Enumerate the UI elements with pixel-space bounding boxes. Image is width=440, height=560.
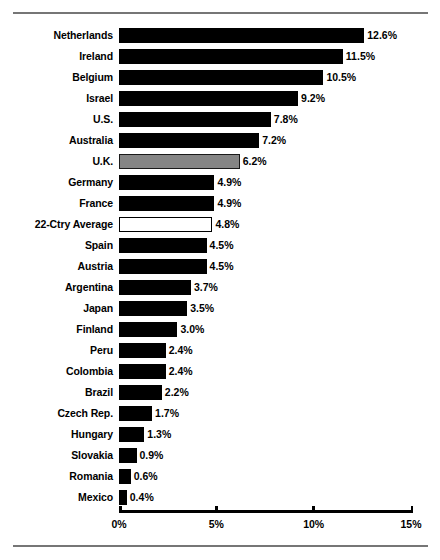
bar-row: 3.7% — [119, 277, 419, 298]
bar-row: 11.5% — [119, 46, 419, 67]
bar — [119, 385, 162, 400]
bar-row: 1.7% — [119, 403, 419, 424]
bar-value-label: 4.5% — [210, 238, 234, 253]
bar — [119, 322, 177, 337]
x-axis-tick — [312, 506, 315, 511]
category-row: Spain — [0, 235, 113, 256]
bar-row: 3.0% — [119, 319, 419, 340]
category-row: Finland — [0, 319, 113, 340]
category-label: Brazil — [85, 382, 113, 403]
bar — [119, 259, 207, 274]
bar-value-label: 0.9% — [140, 448, 164, 463]
bar — [119, 112, 271, 127]
category-row: 22-Ctry Average — [0, 214, 113, 235]
category-row: France — [0, 193, 113, 214]
category-row: Australia — [0, 130, 113, 151]
bar — [119, 490, 127, 505]
bar — [119, 196, 214, 211]
category-label-column: NetherlandsIrelandBelgiumIsraelU.S.Austr… — [0, 25, 113, 508]
category-row: U.K. — [0, 151, 113, 172]
x-axis-tick-label: 10% — [303, 518, 324, 530]
bar-chart-plot-area: NetherlandsIrelandBelgiumIsraelU.S.Austr… — [0, 25, 440, 520]
category-label: Germany — [68, 172, 113, 193]
bar-value-label: 3.7% — [194, 280, 218, 295]
category-label: Japan — [83, 298, 113, 319]
bar-value-label: 4.9% — [217, 196, 241, 211]
x-axis: 0%5%10%15% — [119, 510, 413, 540]
x-axis-start-cap — [119, 506, 122, 513]
bar-row: 6.2% — [119, 151, 419, 172]
bar-value-label: 2.2% — [165, 385, 189, 400]
bar-row: 12.6% — [119, 25, 419, 46]
bar-value-label: 2.4% — [169, 364, 193, 379]
bar-row: 2.4% — [119, 340, 419, 361]
bar — [119, 154, 240, 169]
category-row: Argentina — [0, 277, 113, 298]
category-label: Czech Rep. — [57, 403, 113, 424]
category-label: U.K. — [92, 151, 113, 172]
category-label: Peru — [90, 340, 113, 361]
bar — [119, 301, 187, 316]
bar-row: 4.5% — [119, 235, 419, 256]
category-label: Finland — [76, 319, 113, 340]
bar-row: 4.9% — [119, 193, 419, 214]
bar-value-label: 3.0% — [180, 322, 204, 337]
x-axis-tick-label: 15% — [400, 518, 421, 530]
category-label: Ireland — [79, 46, 113, 67]
bar — [119, 343, 166, 358]
bar-value-label: 6.2% — [243, 154, 267, 169]
category-row: U.S. — [0, 109, 113, 130]
bar — [119, 469, 131, 484]
bottom-divider-rule — [13, 545, 428, 547]
bar-value-label: 1.3% — [147, 427, 171, 442]
category-label: Spain — [85, 235, 113, 256]
bar-row: 9.2% — [119, 88, 419, 109]
bar — [119, 28, 364, 43]
bar — [119, 280, 191, 295]
bar — [119, 238, 207, 253]
category-label: Israel — [86, 88, 113, 109]
category-row: Ireland — [0, 46, 113, 67]
bar — [119, 49, 343, 64]
category-row: Mexico — [0, 487, 113, 508]
bar-row: 2.2% — [119, 382, 419, 403]
category-row: Peru — [0, 340, 113, 361]
bar — [119, 70, 323, 85]
bar — [119, 91, 298, 106]
category-label: France — [79, 193, 113, 214]
category-label: Mexico — [78, 487, 113, 508]
category-row: Austria — [0, 256, 113, 277]
category-label: U.S. — [93, 109, 113, 130]
category-row: Romania — [0, 466, 113, 487]
category-label: Hungary — [71, 424, 113, 445]
bar-value-label: 1.7% — [155, 406, 179, 421]
category-label: Austria — [78, 256, 113, 277]
top-divider-rule — [13, 12, 428, 14]
bar-value-label: 7.8% — [274, 112, 298, 127]
x-axis-tick-label: 5% — [209, 518, 224, 530]
bar-row: 4.9% — [119, 172, 419, 193]
category-label: Slovakia — [71, 445, 113, 466]
category-label: Argentina — [65, 277, 113, 298]
bar-value-label: 7.2% — [262, 133, 286, 148]
category-row: Germany — [0, 172, 113, 193]
bar-value-label: 4.9% — [217, 175, 241, 190]
category-label: Colombia — [66, 361, 113, 382]
category-label: Netherlands — [53, 25, 113, 46]
figure-caption — [14, 551, 434, 560]
bar-row: 3.5% — [119, 298, 419, 319]
category-label: Australia — [69, 130, 113, 151]
bar-value-label: 3.5% — [190, 301, 214, 316]
bar-row: 1.3% — [119, 424, 419, 445]
category-row: Japan — [0, 298, 113, 319]
bar — [119, 133, 259, 148]
category-row: Belgium — [0, 67, 113, 88]
category-label: Belgium — [72, 67, 113, 88]
bar-value-label: 0.6% — [134, 469, 158, 484]
category-row: Hungary — [0, 424, 113, 445]
category-label: Romania — [69, 466, 113, 487]
x-axis-line — [119, 510, 413, 513]
bar-value-label: 10.5% — [326, 70, 356, 85]
bar-row: 2.4% — [119, 361, 419, 382]
bar-value-label: 4.5% — [210, 259, 234, 274]
